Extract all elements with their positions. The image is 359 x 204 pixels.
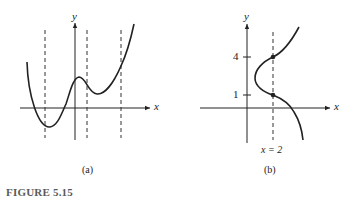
intersection-point-4 [271, 55, 276, 60]
panel-label-a: (a) [82, 164, 93, 175]
y-axis-label-a: y [72, 10, 77, 22]
vertical-line-label: x = 2 [261, 144, 282, 155]
y-axis-label-b: y [244, 10, 249, 22]
tick-label-4: 4 [233, 50, 239, 62]
figure-caption: FIGURE 5.15 [6, 186, 73, 198]
function-curve [27, 24, 134, 127]
panel-b [200, 24, 330, 143]
tick-label-1: 1 [233, 88, 239, 100]
panel-label-b: (b) [264, 164, 276, 175]
x-axis-label-b: x [334, 100, 339, 112]
x-axis-label-a: x [154, 100, 159, 112]
relation-curve [255, 27, 303, 140]
panel-a [20, 23, 150, 140]
figure-canvas [0, 0, 359, 204]
intersection-point-1 [271, 93, 276, 98]
